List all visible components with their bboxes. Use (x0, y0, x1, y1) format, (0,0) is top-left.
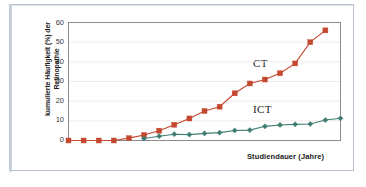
data-point-ct-4 (126, 136, 131, 141)
data-point-ct-6 (157, 128, 162, 133)
series-line-ct (69, 30, 326, 140)
data-point-ct-0 (66, 138, 71, 143)
data-point-ict-3 (187, 132, 192, 137)
data-point-ict-12 (323, 117, 328, 122)
data-point-ct-2 (96, 138, 101, 143)
data-point-ct-17 (323, 28, 328, 33)
data-point-ict-10 (293, 122, 298, 127)
data-point-ct-1 (81, 138, 86, 143)
data-point-ict-13 (338, 116, 343, 121)
data-point-ict-2 (172, 132, 177, 137)
data-point-ct-12 (247, 81, 252, 86)
data-point-ct-16 (308, 40, 313, 45)
data-point-ict-8 (262, 124, 267, 129)
data-point-ct-9 (202, 109, 207, 114)
data-point-ct-13 (262, 77, 267, 82)
data-point-ct-7 (172, 122, 177, 127)
data-point-ct-11 (232, 91, 237, 96)
chart-plot-area (0, 0, 366, 187)
data-point-ct-10 (217, 104, 222, 109)
data-point-ict-7 (247, 127, 252, 132)
data-point-ct-14 (278, 71, 283, 76)
series-ct (66, 28, 328, 143)
data-point-ict-1 (157, 134, 162, 139)
data-point-ct-8 (187, 116, 192, 121)
chart-gridlines (69, 23, 341, 121)
chart-series-layer (66, 28, 343, 143)
series-ict (141, 116, 343, 141)
data-point-ict-9 (277, 122, 282, 127)
figure-container: kumulierte Häufigkeit (%) der Retinopath… (0, 0, 366, 187)
data-point-ct-3 (111, 138, 116, 143)
data-point-ict-6 (232, 128, 237, 133)
data-point-ct-15 (293, 61, 298, 66)
data-point-ict-4 (202, 131, 207, 136)
data-point-ict-5 (217, 130, 222, 135)
data-point-ict-11 (308, 121, 313, 126)
